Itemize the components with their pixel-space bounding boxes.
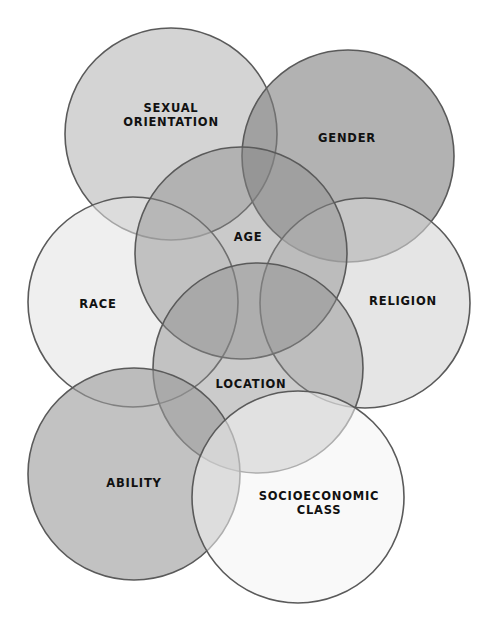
label-line: SOCIOECONOMIC bbox=[259, 489, 380, 503]
label-ability: ABILITY bbox=[106, 476, 161, 490]
label-line: RELIGION bbox=[369, 294, 437, 308]
label-line: GENDER bbox=[318, 131, 376, 145]
label-age: AGE bbox=[234, 230, 263, 244]
label-line: ORIENTATION bbox=[123, 115, 219, 129]
label-line: RACE bbox=[79, 297, 116, 311]
label-line: AGE bbox=[234, 230, 263, 244]
circles-layer bbox=[28, 28, 470, 603]
intersectionality-venn-diagram: SEXUALORIENTATIONGENDERRACERELIGIONAGELO… bbox=[0, 0, 492, 634]
label-line: LOCATION bbox=[215, 377, 286, 391]
label-religion: RELIGION bbox=[369, 294, 437, 308]
label-line: ABILITY bbox=[106, 476, 161, 490]
label-line: CLASS bbox=[297, 503, 342, 517]
label-gender: GENDER bbox=[318, 131, 376, 145]
label-race: RACE bbox=[79, 297, 116, 311]
label-location: LOCATION bbox=[215, 377, 286, 391]
label-line: SEXUAL bbox=[143, 101, 198, 115]
